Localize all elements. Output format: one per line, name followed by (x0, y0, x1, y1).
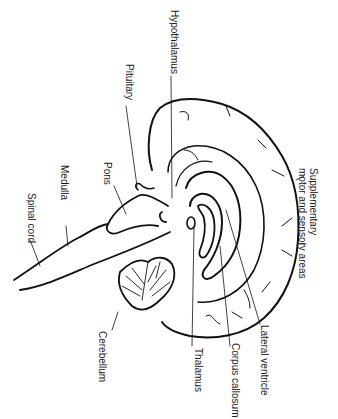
label-supplementary-line1: Supplementary (308, 168, 319, 235)
medulla-spinal-cord-shape (14, 224, 170, 290)
label-cerebellum: Cerebellum (97, 331, 108, 382)
label-pituitary: Pituitary (124, 64, 135, 100)
lateral-ventricle-shape (198, 205, 215, 258)
cingulate-outline (168, 146, 264, 302)
label-hypothalamus: Hypothalamus (169, 10, 180, 74)
label-supplementary-line2: motor and sensory areas (297, 168, 308, 279)
label-lateral-ventricle: Lateral ventricle (259, 325, 270, 396)
label-corpus-callosum: Corpus callosum (230, 343, 241, 417)
cerebellum-shape (119, 258, 174, 310)
pituitary-stalk (136, 183, 154, 190)
label-medulla: Medulla (59, 165, 70, 200)
label-thalamus: Thalamus (193, 348, 204, 392)
thalamus-shape (187, 217, 195, 229)
label-spinal-cord: Spinal cord (26, 193, 37, 243)
pons-shape (107, 195, 168, 234)
label-pons: Pons (102, 162, 113, 185)
